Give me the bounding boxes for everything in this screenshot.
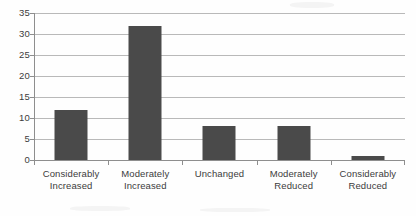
- bar-slot: [108, 13, 182, 160]
- bar-chart: 05101520253035 ConsiderablyIncreasedMode…: [0, 0, 416, 216]
- x-axis-label-line1: Moderately: [108, 168, 182, 180]
- y-tick-label-35: 35: [4, 8, 30, 18]
- y-tick-label-0: 0: [4, 155, 30, 165]
- x-tick-mark: [34, 160, 35, 165]
- bar-slot: [257, 13, 331, 160]
- x-tick-mark: [257, 160, 258, 165]
- bars-group: [34, 13, 405, 160]
- x-axis-label-line1: Considerably: [331, 168, 405, 180]
- x-tick-mark: [331, 160, 332, 165]
- y-tick-label-20: 20: [4, 71, 30, 81]
- scan-artifact: [200, 208, 270, 212]
- x-axis-label-line1: Considerably: [34, 168, 108, 180]
- x-tick-mark: [182, 160, 183, 165]
- x-axis-label: ModeratelyReduced: [257, 168, 331, 192]
- bar: [203, 126, 236, 160]
- x-axis-ticks: [34, 160, 405, 166]
- y-tick-label-15: 15: [4, 92, 30, 102]
- bar-slot: [182, 13, 256, 160]
- x-axis-label-line2: Increased: [108, 180, 182, 192]
- x-axis-label-line1: Unchanged: [182, 168, 256, 180]
- bar-slot: [331, 13, 405, 160]
- y-axis-labels: 05101520253035: [0, 0, 30, 216]
- scan-artifact: [290, 2, 334, 8]
- bar: [55, 110, 88, 160]
- y-tick-label-10: 10: [4, 113, 30, 123]
- x-axis-labels: ConsiderablyIncreasedModeratelyIncreased…: [34, 168, 405, 202]
- scan-artifact: [70, 206, 130, 211]
- x-axis-label-line2: Reduced: [331, 180, 405, 192]
- bar: [277, 126, 310, 160]
- x-axis-label-line2: Reduced: [257, 180, 331, 192]
- x-tick-mark: [108, 160, 109, 165]
- x-axis-label: ConsiderablyReduced: [331, 168, 405, 192]
- y-tick-label-5: 5: [4, 134, 30, 144]
- x-axis-label-line2: Increased: [34, 180, 108, 192]
- x-tick-mark: [404, 160, 405, 165]
- y-tick-label-30: 30: [4, 29, 30, 39]
- bar: [129, 26, 162, 160]
- x-axis-label-line1: Moderately: [257, 168, 331, 180]
- x-axis-label: ConsiderablyIncreased: [34, 168, 108, 192]
- y-tick-label-25: 25: [4, 50, 30, 60]
- x-axis-label: Unchanged: [182, 168, 256, 180]
- bar-slot: [34, 13, 108, 160]
- x-axis-label: ModeratelyIncreased: [108, 168, 182, 192]
